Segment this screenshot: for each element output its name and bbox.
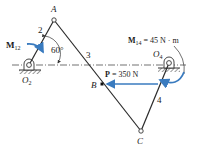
link-4 [141, 63, 169, 131]
pin-o4 [167, 61, 172, 66]
label-m12: M12 [6, 41, 21, 51]
label-o4: O4 [153, 50, 163, 60]
label-m12-symbol: M [6, 40, 15, 50]
label-o4-sub: 4 [160, 54, 163, 60]
pin-c [139, 129, 143, 133]
label-o2-sub: 2 [29, 80, 32, 86]
label-b: B [91, 81, 97, 90]
label-link-2: 2 [38, 26, 43, 35]
label-c: C [137, 137, 143, 146]
pin-a [52, 18, 56, 22]
label-force-p: P = 350 N [105, 71, 138, 79]
label-link-3: 3 [86, 51, 91, 60]
label-o2: O2 [22, 76, 32, 86]
label-m14-value: = 45 N · m [142, 36, 179, 45]
label-a: A [51, 5, 57, 14]
pin-o2 [27, 63, 32, 68]
label-m14: M14 = 45 N · m [128, 37, 179, 46]
label-m14-symbol: M [128, 36, 136, 45]
linkage-diagram [0, 0, 197, 149]
label-m12-sub: 12 [15, 45, 21, 51]
label-force-p-value: = 350 N [110, 70, 138, 79]
label-angle: 60° [51, 46, 64, 55]
point-b [101, 83, 104, 86]
label-link-4: 4 [157, 96, 162, 105]
